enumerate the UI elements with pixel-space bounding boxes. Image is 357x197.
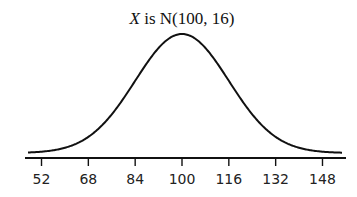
x-axis-ticks: 526884100116132148 — [33, 158, 336, 187]
title-text: is N(100, 16) — [140, 9, 234, 28]
chart-title: X is N(100, 16) — [129, 9, 235, 28]
x-tick-label: 68 — [79, 171, 97, 187]
title-variable: X — [129, 9, 141, 28]
density-curve — [28, 34, 342, 153]
x-tick-label: 132 — [262, 171, 289, 187]
normal-distribution-chart: X is N(100, 16) 526884100116132148 — [0, 0, 357, 197]
x-tick-label: 84 — [126, 171, 144, 187]
x-tick-label: 148 — [309, 171, 336, 187]
x-tick-label: 100 — [169, 171, 196, 187]
x-tick-label: 52 — [33, 171, 51, 187]
x-tick-label: 116 — [215, 171, 242, 187]
